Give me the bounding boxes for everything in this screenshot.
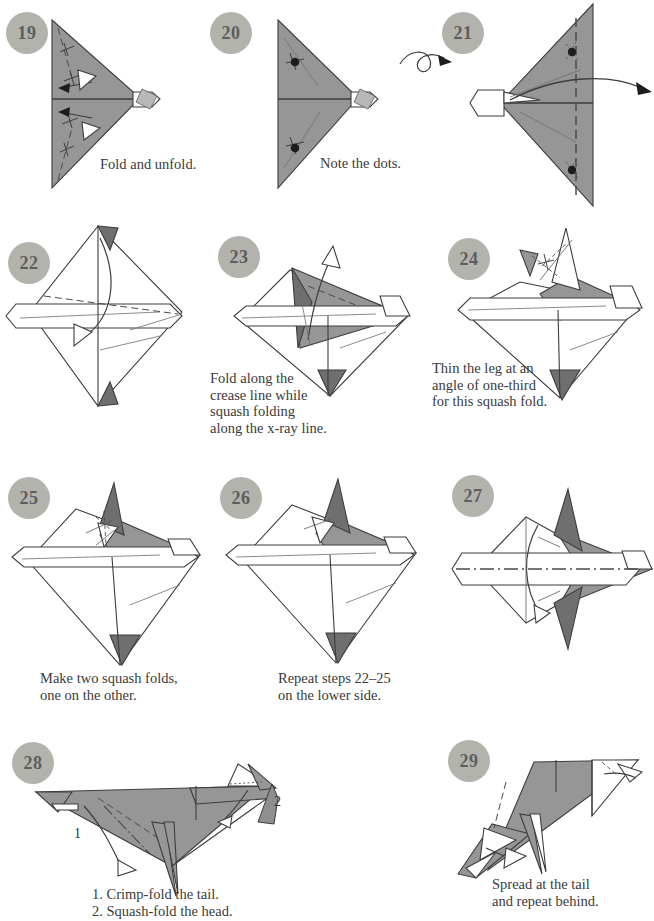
step-24: 24: [420, 220, 654, 460]
step-19: 19: [0, 0, 210, 210]
origami-instruction-page: 19: [0, 0, 654, 921]
step-22-figure: [0, 220, 215, 450]
step-27: 27: [430, 465, 654, 715]
step-27-figure: [430, 465, 654, 715]
step-28-caption: 1. Crimp-fold the tail. 2. Squash-fold t…: [92, 886, 233, 919]
step-20-caption: Note the dots.: [320, 155, 401, 172]
reference-dot-lower: [291, 144, 300, 153]
step-29: 29: [380, 728, 654, 921]
reference-dot-upper: [568, 48, 576, 56]
step-26: 26 Repeat steps 22–25 on the lower side.: [210, 465, 435, 715]
turn-over-arrow: [400, 52, 452, 72]
step-23-caption: Fold along the crease line while squash …: [210, 370, 327, 436]
step-28: 28: [0, 728, 340, 921]
step-26-caption: Repeat steps 22–25 on the lower side.: [278, 670, 391, 703]
step-24-figure: [420, 220, 654, 460]
step-20-figure: [200, 0, 415, 210]
step-24-caption: Thin the leg at an angle of one-third fo…: [432, 360, 547, 410]
step-19-caption: Fold and unfold.: [100, 156, 196, 173]
reference-dot-upper: [291, 58, 300, 67]
step-22: 22: [0, 220, 215, 450]
step-28-label-1: 1: [74, 826, 81, 842]
step-20: 20 Note the dots.: [200, 0, 415, 210]
step-25-caption: Make two squash folds, one on the other.: [40, 670, 178, 703]
step-21: 21: [400, 0, 654, 212]
step-28-label-2: 2: [274, 794, 281, 810]
step-19-figure: [0, 0, 210, 210]
step-25: 25: [0, 465, 215, 715]
step-29-caption: Spread at the tail and repeat behind.: [492, 876, 599, 909]
step-23: 23: [200, 220, 430, 460]
step-21-figure: [400, 0, 654, 212]
reference-dot-lower: [568, 166, 576, 174]
